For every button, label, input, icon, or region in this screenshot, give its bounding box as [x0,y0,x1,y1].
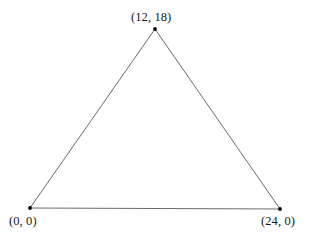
vertex-dot-right [278,207,282,211]
vertex-label-right: (24, 0) [261,215,295,228]
vertex-dot-apex [153,27,157,31]
triangle-outline [30,29,280,209]
triangle-diagram [0,0,311,243]
triangle-figure: (12, 18) (0, 0) (24, 0) [0,0,311,243]
vertex-dot-origin [28,206,32,210]
vertex-label-apex: (12, 18) [131,11,171,24]
vertex-label-origin: (0, 0) [9,215,37,228]
